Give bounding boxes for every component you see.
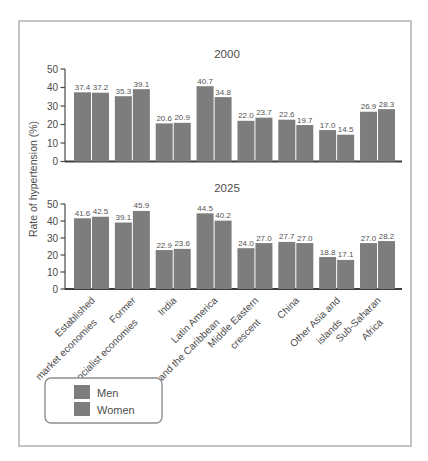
- y-tick-label: 20: [47, 250, 59, 261]
- bar-men: [197, 86, 214, 161]
- bar-value-label: 27.0: [361, 234, 377, 243]
- bar-value-label: 39.1: [116, 213, 132, 222]
- bar-value-label: 44.5: [197, 204, 213, 213]
- bar-men: [319, 130, 336, 161]
- bar-men: [74, 218, 91, 289]
- bar-men: [360, 243, 377, 289]
- legend-swatch-men: [74, 385, 90, 399]
- bar-men: [115, 96, 132, 161]
- bar-value-label: 42.5: [93, 207, 109, 216]
- x-category-label: China: [275, 294, 302, 321]
- panel-title-2000: 2000: [214, 48, 240, 60]
- bar-value-label: 28.2: [379, 232, 395, 241]
- bar-value-label: 17.1: [338, 250, 354, 259]
- y-axis-label: Rate of hypertension (%): [27, 121, 39, 237]
- y-tick-label: 20: [47, 119, 59, 130]
- bar-value-label: 24.0: [238, 239, 254, 248]
- bar-men: [360, 112, 377, 162]
- bar-value-label: 22.9: [156, 241, 172, 250]
- bar-value-label: 28.3: [379, 100, 395, 109]
- bar-women: [378, 109, 395, 161]
- bar-women: [215, 221, 232, 289]
- hypertension-bar-charts: 2000 0102030405037.437.235.339.120.620.9…: [20, 22, 410, 445]
- bar-value-label: 23.7: [256, 108, 272, 117]
- page: 2000 0102030405037.437.235.339.120.620.9…: [0, 0, 428, 461]
- panel-2025: 0102030405041.642.5Establishedmarket eco…: [33, 199, 402, 386]
- bar-men: [278, 242, 295, 289]
- y-tick-label: 30: [47, 101, 59, 112]
- bar-men: [319, 257, 336, 289]
- bar-women: [215, 97, 232, 161]
- bar-value-label: 40.7: [197, 77, 213, 86]
- bar-value-label: 27.0: [256, 234, 272, 243]
- y-tick-label: 40: [47, 82, 59, 93]
- panel-title-2025: 2025: [214, 182, 240, 194]
- bar-value-label: 37.4: [75, 83, 91, 92]
- bar-women: [92, 217, 109, 289]
- bar-value-label: 22.6: [279, 110, 295, 119]
- bar-men: [115, 223, 132, 289]
- y-tick-label: 30: [47, 233, 59, 244]
- bar-men: [197, 213, 214, 289]
- y-tick-label: 50: [47, 64, 59, 75]
- bar-value-label: 35.3: [116, 87, 132, 96]
- y-tick-label: 0: [52, 284, 58, 295]
- bar-women: [296, 243, 313, 289]
- bar-women: [337, 135, 354, 162]
- legend-box: [45, 378, 162, 423]
- bar-value-label: 37.2: [93, 83, 109, 92]
- panel-2000: 0102030405037.437.235.339.120.620.940.73…: [47, 64, 402, 168]
- bar-women: [255, 118, 272, 162]
- bar-value-label: 18.8: [320, 248, 336, 257]
- y-tick-label: 10: [47, 138, 59, 149]
- bar-men: [156, 123, 173, 161]
- bar-men: [156, 250, 173, 289]
- x-category-label: India: [156, 294, 179, 317]
- bar-men: [74, 92, 91, 161]
- bar-value-label: 39.1: [134, 80, 150, 89]
- bar-women: [174, 123, 191, 162]
- legend-label-men: Men: [97, 387, 118, 399]
- bar-value-label: 26.9: [361, 102, 377, 111]
- legend-swatch-women: [74, 402, 90, 416]
- bar-value-label: 19.7: [297, 116, 313, 125]
- legend: Men Women: [45, 378, 162, 423]
- bar-women: [174, 249, 191, 289]
- bar-men: [237, 121, 254, 162]
- bar-value-label: 20.6: [156, 114, 172, 123]
- bar-value-label: 22.0: [238, 111, 254, 120]
- bar-value-label: 17.0: [320, 121, 336, 130]
- bar-value-label: 23.6: [174, 239, 190, 248]
- bar-women: [133, 211, 150, 289]
- bar-women: [337, 260, 354, 289]
- bar-value-label: 41.6: [75, 209, 91, 218]
- bar-value-label: 34.8: [215, 88, 231, 97]
- bar-women: [378, 241, 395, 289]
- bar-value-label: 27.0: [297, 234, 313, 243]
- bar-value-label: 20.9: [174, 113, 190, 122]
- bar-value-label: 14.5: [338, 125, 354, 134]
- figure-box: 2000 0102030405037.437.235.339.120.620.9…: [18, 20, 412, 447]
- bar-value-label: 27.7: [279, 232, 295, 241]
- bar-women: [296, 125, 313, 161]
- bar-women: [255, 243, 272, 289]
- bar-value-label: 45.9: [134, 201, 150, 210]
- y-tick-label: 0: [52, 156, 58, 167]
- y-tick-label: 40: [47, 216, 59, 227]
- legend-label-women: Women: [97, 404, 135, 416]
- bar-men: [237, 248, 254, 289]
- bar-women: [133, 89, 150, 161]
- bar-value-label: 40.2: [215, 211, 231, 220]
- bar-women: [92, 93, 109, 162]
- y-tick-label: 50: [47, 199, 59, 210]
- bar-men: [278, 120, 295, 162]
- y-tick-label: 10: [47, 267, 59, 278]
